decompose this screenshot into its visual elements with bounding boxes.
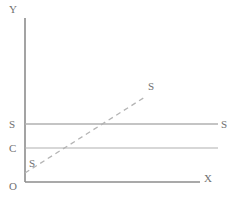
x-axis-label: X bbox=[204, 173, 212, 184]
s-curve-start-label: S bbox=[29, 158, 35, 169]
figure-vector-layer bbox=[0, 0, 237, 202]
s-line-left-label: S bbox=[9, 119, 15, 130]
s-line-right-label: S bbox=[221, 119, 227, 130]
y-axis-label: Y bbox=[9, 4, 17, 15]
c-line-left-label: C bbox=[9, 143, 16, 154]
figure-canvas: Y X O S S C S S bbox=[0, 0, 237, 202]
s-curve-end-label: S bbox=[148, 81, 154, 92]
s-rising-dashed-line bbox=[25, 97, 145, 173]
origin-label: O bbox=[9, 181, 17, 192]
